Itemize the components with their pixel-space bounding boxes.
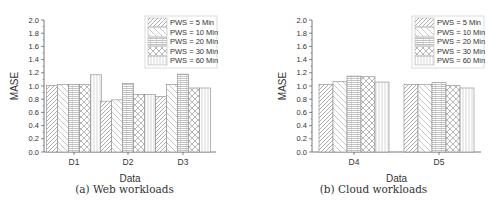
svg-text:1.0: 1.0 [297, 82, 307, 91]
svg-text:1.6: 1.6 [29, 42, 39, 51]
svg-text:2.0: 2.0 [29, 16, 39, 25]
svg-text:0.6: 0.6 [297, 108, 307, 117]
svg-text:D1: D1 [69, 157, 80, 167]
svg-text:1.8: 1.8 [297, 29, 307, 38]
svg-text:D4: D4 [349, 157, 360, 167]
svg-text:PWS = 60 Min: PWS = 60 Min [170, 56, 218, 65]
svg-text:0.8: 0.8 [297, 95, 307, 104]
svg-text:PWS = 10 Min: PWS = 10 Min [170, 28, 218, 37]
svg-text:0.4: 0.4 [297, 121, 307, 130]
svg-text:PWS = 60 Min: PWS = 60 Min [437, 56, 485, 65]
svg-text:1.8: 1.8 [29, 29, 39, 38]
chart-panel-web: 0.00.20.40.60.81.01.21.41.61.82.0MASED1D… [0, 0, 249, 215]
svg-text:1.2: 1.2 [297, 68, 307, 77]
svg-text:D3: D3 [178, 157, 189, 167]
svg-text:0.8: 0.8 [29, 95, 39, 104]
svg-text:PWS = 30 Min: PWS = 30 Min [170, 47, 218, 56]
svg-text:D2: D2 [123, 157, 134, 167]
chart-panel-cloud: 0.00.20.40.60.81.01.21.41.61.82.0MASED4D… [249, 0, 498, 215]
svg-text:0.0: 0.0 [29, 148, 39, 157]
svg-text:PWS = 20 Min: PWS = 20 Min [170, 37, 218, 46]
svg-text:0.2: 0.2 [297, 134, 307, 143]
svg-text:MASE: MASE [277, 72, 288, 101]
svg-text:1.2: 1.2 [29, 68, 39, 77]
svg-text:1.4: 1.4 [297, 55, 307, 64]
svg-text:0.4: 0.4 [29, 121, 39, 130]
svg-text:1.0: 1.0 [29, 82, 39, 91]
svg-text:1.4: 1.4 [29, 55, 39, 64]
svg-text:0.6: 0.6 [29, 108, 39, 117]
svg-text:PWS = 10 Min: PWS = 10 Min [437, 28, 485, 37]
caption-cloud: (b) Cloud workloads [249, 183, 498, 195]
svg-text:D5: D5 [434, 157, 445, 167]
chart-web-workloads: 0.00.20.40.60.81.01.21.41.61.82.0MASED1D… [0, 0, 249, 190]
svg-text:PWS = 20 Min: PWS = 20 Min [437, 37, 485, 46]
svg-text:0.2: 0.2 [29, 134, 39, 143]
svg-text:PWS = 5 Min: PWS = 5 Min [437, 18, 481, 27]
svg-text:PWS = 5 Min: PWS = 5 Min [170, 18, 214, 27]
svg-text:2.0: 2.0 [297, 16, 307, 25]
chart-cloud-workloads: 0.00.20.40.60.81.01.21.41.61.82.0MASED4D… [249, 0, 498, 190]
caption-web: (a) Web workloads [0, 183, 249, 195]
svg-text:1.6: 1.6 [297, 42, 307, 51]
svg-text:PWS = 30 Min: PWS = 30 Min [437, 47, 485, 56]
svg-text:0.0: 0.0 [297, 148, 307, 157]
svg-text:MASE: MASE [9, 72, 20, 101]
